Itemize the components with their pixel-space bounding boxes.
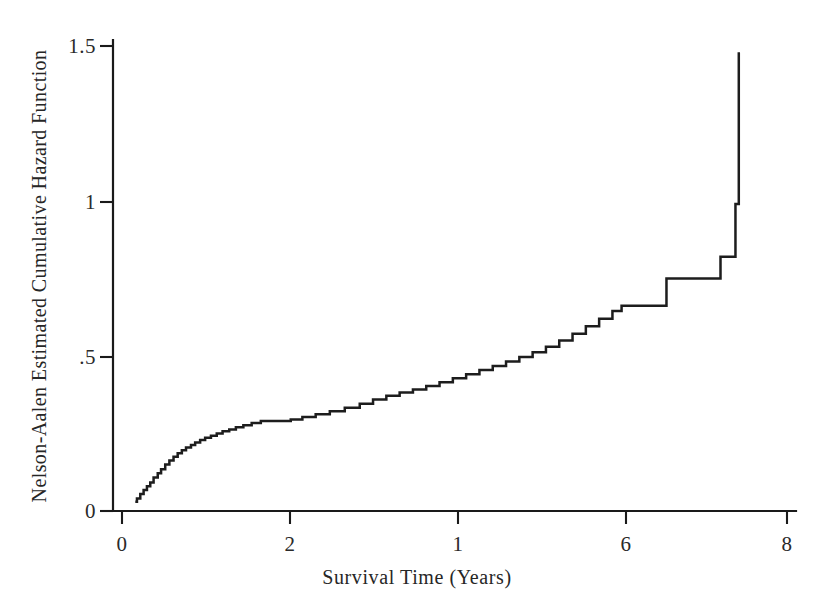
y-axis-title: Nelson-Aalen Estimated Cumulative Hazard… (28, 50, 50, 503)
y-tick-label-1_5: 1.5 (58, 34, 96, 59)
y-tick-label-1: 1 (58, 190, 96, 215)
y-axis-title-container: Nelson-Aalen Estimated Cumulative Hazard… (28, 36, 58, 516)
x-tick-label-8: 8 (782, 532, 793, 557)
y-tick-label-0: 0 (58, 499, 96, 524)
x-tick-label-6: 6 (621, 532, 632, 557)
axes-group (100, 40, 796, 524)
x-tick-label-2: 2 (285, 532, 296, 557)
chart-plot-area (0, 0, 834, 609)
x-tick-label-0: 0 (117, 532, 128, 557)
x-axis-title: Survival Time (Years) (0, 566, 834, 589)
x-axis-ticks (122, 511, 787, 524)
chart-figure: 1.5 1 .5 0 0 2 1 6 8 Survival Time (Year… (0, 0, 834, 609)
y-tick-label-0_5: .5 (58, 345, 96, 370)
hazard-step-curve (135, 52, 738, 502)
y-axis-ticks (100, 46, 113, 511)
x-tick-label-4: 1 (453, 532, 464, 557)
